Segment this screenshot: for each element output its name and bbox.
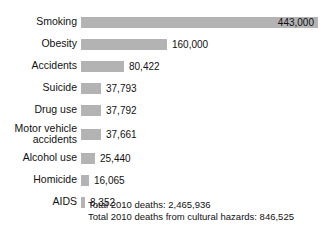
chart-rows: Smoking 443,000 Obesity 160,000 Accident… [0,11,329,213]
bar-aids [81,197,85,208]
table-row: Suicide 37,793 [0,77,329,99]
bar-area: 37,792 [81,99,329,121]
table-row: Alcohol use 25,440 [0,147,329,169]
bar-motor-vehicle-accidents [81,129,101,140]
bar-area: 80,422 [81,55,329,77]
bar-accidents [81,61,124,72]
category-label-aids: AIDS [0,196,81,208]
value-label-smoking: 443,000 [278,17,314,28]
category-label-obesity: Obesity [0,38,81,50]
category-label-smoking: Smoking [0,16,81,28]
value-label-accidents: 80,422 [129,61,160,72]
table-row: Drug use 37,792 [0,99,329,121]
value-label-motor-vehicle-accidents: 37,661 [106,129,137,140]
bar-area: 37,793 [81,77,329,99]
deaths-by-cause-bar-chart: Smoking 443,000 Obesity 160,000 Accident… [0,0,329,231]
value-label-drug-use: 37,792 [106,105,137,116]
bar-homicide [81,175,89,186]
table-row: Smoking 443,000 [0,11,329,33]
value-label-alcohol-use: 25,440 [100,153,131,164]
category-label-motor-vehicle-accidents: Motor vehicle accidents [0,123,81,146]
category-label-accidents: Accidents [0,60,81,72]
bar-suicide [81,83,101,94]
category-label-drug-use: Drug use [0,104,81,116]
value-label-homicide: 16,065 [94,175,125,186]
table-row: Homicide 16,065 [0,169,329,191]
bar-area: 25,440 [81,147,329,169]
value-label-suicide: 37,793 [106,83,137,94]
bar-area: 443,000 [81,11,329,33]
category-label-suicide: Suicide [0,82,81,94]
bar-area: 160,000 [81,33,329,55]
footer-total-deaths: Total 2010 deaths: 2,465,936 [88,199,294,211]
table-row: Accidents 80,422 [0,55,329,77]
value-label-obesity: 160,000 [172,39,208,50]
category-label-alcohol-use: Alcohol use [0,152,81,164]
category-label-homicide: Homicide [0,174,81,186]
table-row: Motor vehicle accidents 37,661 [0,121,329,147]
footer-total-cultural-hazard-deaths: Total 2010 deaths from cultural hazards:… [88,211,294,223]
chart-footer: Total 2010 deaths: 2,465,936 Total 2010 … [88,199,294,222]
bar-area: 16,065 [81,169,329,191]
bar-smoking: 443,000 [81,17,318,28]
table-row: Obesity 160,000 [0,33,329,55]
bar-drug-use [81,105,101,116]
bar-area: 37,661 [81,121,329,147]
bar-alcohol-use [81,153,95,164]
bar-obesity [81,39,167,50]
